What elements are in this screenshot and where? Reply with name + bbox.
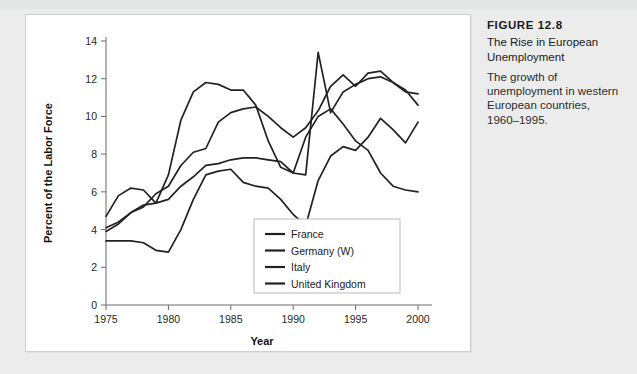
x-tick-label: 1990 bbox=[282, 313, 306, 325]
figure-caption: FIGURE 12.8 The Rise in European Unemplo… bbox=[487, 18, 625, 127]
x-tick-label: 1975 bbox=[94, 313, 118, 325]
y-tick-label: 10 bbox=[85, 110, 97, 122]
x-tick-label: 1995 bbox=[344, 313, 368, 325]
figure-description: The growth of unemployment in western Eu… bbox=[487, 70, 625, 127]
x-tick-label: 1985 bbox=[219, 313, 243, 325]
y-tick-label: 0 bbox=[91, 299, 97, 311]
y-tick-label: 14 bbox=[85, 35, 97, 47]
line-chart: 02468101214197519801985199019952000YearP… bbox=[26, 15, 470, 351]
figure-container: 02468101214197519801985199019952000YearP… bbox=[0, 0, 637, 374]
series-line-italy bbox=[106, 52, 418, 231]
legend-label-2: Italy bbox=[291, 261, 311, 273]
legend-label-0: France bbox=[291, 228, 324, 240]
legend-label-1: Germany (W) bbox=[291, 245, 354, 257]
y-tick-label: 2 bbox=[91, 261, 97, 273]
legend-label-3: United Kingdom bbox=[291, 278, 366, 290]
y-tick-label: 8 bbox=[91, 148, 97, 160]
y-tick-label: 4 bbox=[91, 224, 97, 236]
y-axis-title: Percent of the Labor Force bbox=[42, 103, 54, 243]
figure-title: The Rise in European Unemployment bbox=[487, 35, 625, 64]
x-tick-label: 1980 bbox=[157, 313, 181, 325]
y-tick-label: 6 bbox=[91, 186, 97, 198]
x-axis-title: Year bbox=[250, 335, 274, 347]
y-tick-label: 12 bbox=[85, 73, 97, 85]
chart-panel: 02468101214197519801985199019952000YearP… bbox=[25, 14, 471, 352]
figure-number: FIGURE 12.8 bbox=[487, 18, 625, 32]
x-tick-label: 2000 bbox=[406, 313, 430, 325]
